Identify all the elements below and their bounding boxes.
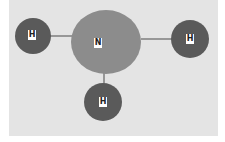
nitrogen-atom: [71, 10, 141, 74]
atom-label-h2: H: [186, 34, 194, 44]
atom-label-n: N: [94, 38, 102, 48]
ammonia-molecule-diagram: [0, 0, 225, 142]
atom-label-h3: H: [99, 97, 107, 107]
atom-label-h1: H: [28, 30, 36, 40]
